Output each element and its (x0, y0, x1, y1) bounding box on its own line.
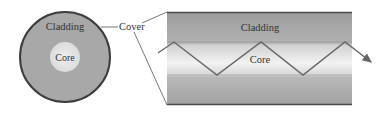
longitudinal-core-label: Core (250, 54, 271, 65)
cross-section-core-label: Core (55, 52, 75, 63)
zoom-line-bottom (134, 32, 167, 105)
optical-fiber-diagram: Cladding Core Cover Cladding Core (0, 0, 392, 117)
zoom-line-top (142, 12, 167, 23)
cover-label: Cover (119, 21, 145, 32)
fiber-cross-section: Cladding Core (20, 12, 110, 102)
cross-section-cladding-label: Cladding (46, 21, 85, 32)
fiber-longitudinal-section: Cladding Core (158, 12, 371, 105)
longitudinal-cladding-label: Cladding (241, 22, 280, 33)
